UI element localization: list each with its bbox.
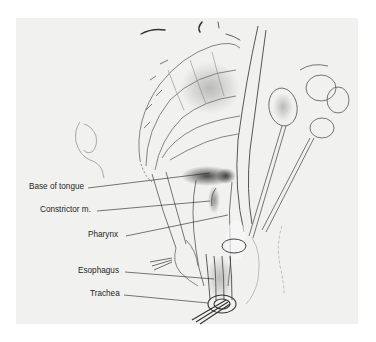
anatomical-illustration: [0, 0, 376, 342]
label-pharynx: Pharynx: [88, 230, 118, 240]
tongue-mass: [139, 43, 240, 182]
leader-line-trachea: [124, 295, 208, 303]
retractor-blade: [237, 26, 266, 232]
left-sketch: [76, 122, 105, 178]
label-trachea: Trachea: [90, 289, 120, 299]
retractor-hooks: [249, 65, 349, 238]
label-esophagus: Esophagus: [78, 266, 119, 276]
label-constrictor-muscle: Constrictor m.: [40, 205, 91, 215]
label-base-of-tongue: Base of tongue: [29, 182, 84, 192]
top-sketch-marks: [141, 22, 240, 40]
leader-line-pharynx: [126, 215, 228, 236]
suture-flap: [150, 240, 198, 286]
right-sketch: [246, 226, 284, 304]
